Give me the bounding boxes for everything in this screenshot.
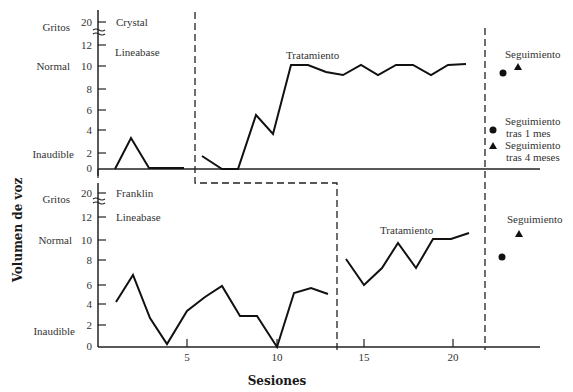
- category-gritos: Gritos: [43, 193, 71, 205]
- y-tick-20: 20: [81, 16, 93, 28]
- crystal-followup-1month: [500, 70, 507, 77]
- y-tick-4: 4: [87, 124, 93, 136]
- crystal-baseline-series: [115, 138, 184, 169]
- participant-label-crystal: Crystal: [116, 16, 148, 28]
- category-inaudible: Inaudible: [32, 148, 74, 160]
- x-tick-5: 5: [184, 351, 190, 363]
- franklin-treatment-series: [346, 233, 469, 285]
- axis-break-icon: [93, 29, 105, 35]
- y-tick-0: 0: [87, 162, 93, 174]
- y-tick-0: 0: [87, 340, 93, 352]
- category-inaudible: Inaudible: [33, 325, 75, 337]
- y-tick-8: 8: [87, 254, 93, 266]
- legend-2-line2: tras 4 meses: [506, 151, 560, 163]
- y-tick-20: 20: [81, 187, 93, 199]
- legend-1-line2: tras 1 mes: [506, 127, 551, 139]
- y-tick-8: 8: [87, 83, 93, 95]
- x-tick-15: 15: [359, 351, 371, 363]
- y-tick-6: 6: [87, 104, 93, 116]
- franklin-baseline-series: [116, 275, 328, 347]
- axis-break-icon: [93, 198, 105, 204]
- legend-2-line1: Seguimiento: [505, 139, 561, 151]
- legend-circle-icon: [490, 127, 497, 134]
- y-tick-10: 10: [81, 60, 93, 72]
- phase-label-baseline: Lineabase: [116, 211, 161, 223]
- y-axis-title: Volumen de voz: [11, 177, 25, 283]
- participant-label-franklin: Franklin: [116, 187, 154, 199]
- x-tick-10: 10: [272, 351, 284, 363]
- category-normal: Normal: [38, 234, 72, 246]
- y-tick-4: 4: [87, 298, 93, 310]
- phase-change-line-stepped: [195, 12, 337, 350]
- y-tick-2: 2: [87, 319, 93, 331]
- legend-triangle-icon: [489, 142, 497, 149]
- y-tick-10: 10: [81, 234, 93, 246]
- franklin-followup-4months: [515, 230, 523, 237]
- panel-crystal: 20 12 10 8 6 4 2 0 Gritos Normal Inaudib…: [32, 10, 561, 176]
- y-tick-12: 12: [81, 211, 92, 223]
- crystal-followup-4months: [514, 63, 522, 70]
- phase-label-baseline: Lineabase: [115, 46, 160, 58]
- phase-label-treatment: Tratamiento: [286, 49, 340, 61]
- multiple-baseline-chart: Volumen de voz Sesiones 20 12 10 8 6 4 2…: [0, 0, 573, 392]
- crystal-treatment-series: [202, 64, 466, 169]
- phase-label-followup: Seguimiento: [507, 213, 563, 225]
- legend-1-line1: Seguimiento: [505, 115, 561, 127]
- y-tick-12: 12: [81, 39, 92, 51]
- y-tick-2: 2: [87, 147, 93, 159]
- phase-label-treatment: Tratamiento: [380, 224, 434, 236]
- x-tick-20: 20: [448, 351, 460, 363]
- phase-label-followup: Seguimiento: [505, 48, 561, 60]
- category-gritos: Gritos: [43, 21, 71, 33]
- x-axis-title: Sesiones: [248, 374, 307, 388]
- y-tick-6: 6: [87, 279, 93, 291]
- franklin-followup-1month: [499, 254, 506, 261]
- panel-franklin: 20 12 10 8 6 4 2 0 5 10 15 20 Gritos Nor…: [33, 183, 563, 363]
- category-normal: Normal: [36, 60, 70, 72]
